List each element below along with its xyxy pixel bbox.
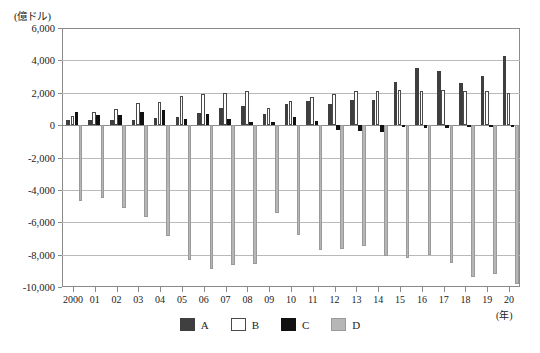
legend-label-D: D: [352, 319, 360, 331]
bar-D-06: [210, 125, 214, 269]
bar-A-20: [503, 56, 507, 125]
legend-swatch-C-icon: [281, 318, 296, 331]
bar-A-06: [197, 113, 201, 126]
x-tick-mark: [247, 287, 248, 292]
bar-A-2000: [66, 120, 70, 125]
bar-B-10: [289, 101, 293, 125]
bar-B-01: [92, 112, 96, 125]
x-tick-label-14: 14: [373, 294, 383, 305]
x-tick-mark: [487, 287, 488, 292]
bar-D-20: [515, 125, 519, 284]
bar-D-10: [297, 125, 301, 235]
x-tick-mark: [226, 287, 227, 292]
y-tick-label: -10,000: [23, 282, 55, 293]
legend-swatch-D-icon: [331, 318, 346, 331]
bar-D-19: [493, 125, 497, 274]
bar-B-14: [376, 91, 380, 125]
y-tick-mark: [58, 287, 62, 288]
x-tick-label-05: 05: [177, 294, 187, 305]
x-tick-mark: [138, 287, 139, 292]
y-tick-label: 4,000: [31, 55, 55, 66]
x-tick-label-12: 12: [330, 294, 340, 305]
bar-B-15: [398, 90, 402, 126]
x-tick-label-10: 10: [286, 294, 296, 305]
bar-B-16: [420, 91, 424, 125]
x-tick-mark: [422, 287, 423, 292]
bar-D-07: [231, 125, 235, 265]
bar-A-17: [437, 71, 441, 125]
bar-C-18: [467, 125, 471, 126]
y-tick-label: -4,000: [28, 185, 55, 196]
bar-D-04: [166, 125, 170, 236]
legend-swatch-A-icon: [180, 318, 195, 331]
bar-D-01: [101, 125, 105, 198]
bar-B-11: [310, 97, 314, 125]
bar-B-06: [201, 94, 205, 125]
y-tick-mark: [58, 125, 62, 126]
bar-C-06: [206, 114, 210, 125]
bar-A-02: [110, 120, 114, 126]
bar-C-14: [380, 125, 384, 131]
y-tick-mark: [58, 28, 62, 29]
bar-C-10: [293, 117, 297, 125]
y-tick-label: 2,000: [31, 88, 55, 99]
legend-label-A: A: [201, 319, 209, 331]
bar-B-02: [114, 109, 118, 125]
legend-item-B[interactable]: B: [231, 318, 259, 331]
chart-legend: ABCD: [0, 318, 540, 331]
bar-C-12: [336, 125, 340, 130]
bar-D-05: [188, 125, 192, 260]
bar-A-11: [306, 101, 310, 125]
bar-C-13: [358, 125, 362, 131]
y-axis-unit-label: (億ドル): [14, 8, 51, 23]
x-tick-label-17: 17: [439, 294, 449, 305]
legend-item-D[interactable]: D: [331, 318, 360, 331]
bar-D-03: [144, 125, 148, 216]
y-tick-label: 6,000: [31, 23, 55, 34]
bar-D-02: [122, 125, 126, 208]
x-tick-mark: [400, 287, 401, 292]
bar-B-07: [223, 93, 227, 125]
y-tick-label: -8,000: [28, 250, 55, 261]
x-tick-label-18: 18: [461, 294, 471, 305]
x-tick-label-11: 11: [308, 294, 318, 305]
bar-B-04: [158, 102, 162, 125]
bar-C-2000: [75, 112, 79, 125]
bar-A-03: [132, 120, 136, 125]
bar-D-16: [428, 125, 432, 255]
x-tick-label-15: 15: [395, 294, 405, 305]
y-tick-mark: [58, 255, 62, 256]
bar-B-12: [332, 94, 336, 125]
bar-A-07: [219, 108, 223, 125]
legend-swatch-B-icon: [231, 318, 246, 331]
x-tick-label-19: 19: [482, 294, 492, 305]
x-tick-label-13: 13: [351, 294, 361, 305]
bar-D-2000: [79, 125, 83, 201]
y-tick-label: 0: [50, 120, 55, 131]
gridline-2000: [62, 93, 520, 94]
bar-C-20: [511, 125, 515, 127]
bar-C-04: [162, 110, 166, 125]
bar-B-05: [180, 96, 184, 125]
bar-C-19: [489, 125, 493, 127]
x-tick-label-08: 08: [242, 294, 252, 305]
bar-D-14: [384, 125, 388, 256]
legend-label-C: C: [302, 319, 309, 331]
x-tick-mark: [509, 287, 510, 292]
y-tick-label: -6,000: [28, 217, 55, 228]
bar-C-03: [140, 112, 144, 125]
legend-item-C[interactable]: C: [281, 318, 309, 331]
bar-D-08: [253, 125, 257, 264]
bar-D-13: [362, 125, 366, 246]
bar-A-14: [372, 100, 376, 125]
bar-C-02: [118, 115, 122, 125]
bar-A-05: [176, 117, 180, 125]
legend-item-A[interactable]: A: [180, 318, 209, 331]
bar-C-17: [445, 125, 449, 127]
bar-B-17: [441, 90, 445, 126]
x-tick-mark: [335, 287, 336, 292]
x-tick-mark: [291, 287, 292, 292]
chart-figure: (億ドル) 6,0004,0002,0000-2,000-4,000-6,000…: [0, 0, 540, 353]
bar-C-09: [271, 122, 275, 125]
bar-A-18: [459, 83, 463, 125]
